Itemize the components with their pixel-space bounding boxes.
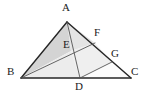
vertex-label-C: C bbox=[131, 66, 138, 77]
vertex-label-B: B bbox=[7, 66, 14, 77]
vertex-label-G: G bbox=[111, 48, 119, 59]
vertex-label-D: D bbox=[75, 81, 83, 92]
geometry-canvas bbox=[0, 0, 143, 96]
vertex-label-A: A bbox=[62, 2, 70, 13]
vertex-label-F: F bbox=[94, 27, 100, 38]
vertex-label-E: E bbox=[63, 39, 70, 50]
geometry-figure: A B C D E F G bbox=[0, 0, 143, 96]
